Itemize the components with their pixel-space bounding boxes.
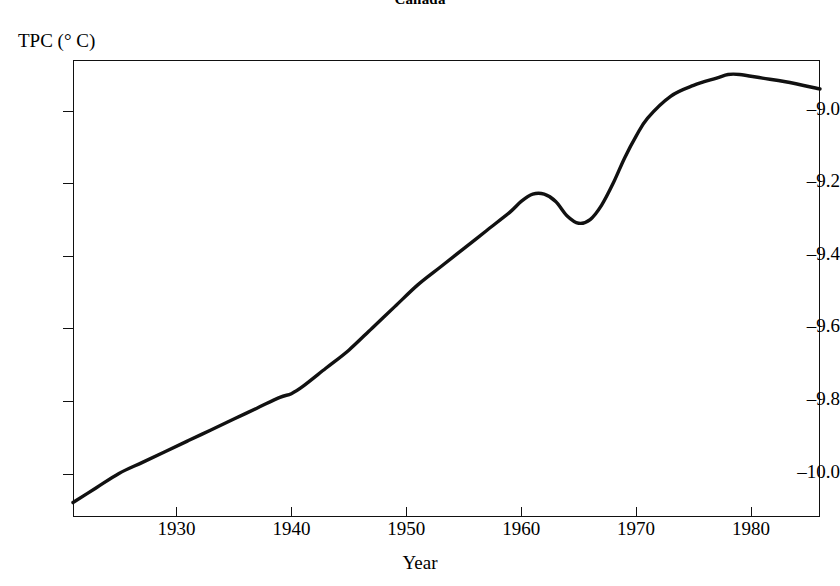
plot-area [73,60,820,517]
x-axis-tick [291,507,292,517]
y-axis-tick-label: –9.2 [778,170,840,192]
y-axis-tick [63,474,73,475]
y-axis-tick-label: –9.6 [778,315,840,337]
y-axis-label: TPC (° C) [18,30,95,52]
x-axis-tick [406,507,407,517]
x-axis-label: Year [0,552,840,574]
x-axis-tick-label: 1940 [251,518,331,540]
x-axis-tick [636,507,637,517]
data-line-series-tpc [73,74,820,502]
y-axis-tick [63,183,73,184]
chart-title: Canada [0,0,840,8]
y-axis-tick-label: –9.8 [778,388,840,410]
x-axis-tick-label: 1960 [481,518,561,540]
y-axis-tick-label: –9.4 [778,243,840,265]
x-axis-tick [521,507,522,517]
x-axis-tick-label: 1970 [596,518,676,540]
x-axis-tick-label: 1950 [366,518,446,540]
y-axis-tick [63,401,73,402]
x-axis-tick [751,507,752,517]
temperature-trend-chart: Canada TPC (° C) –9.0–9.2–9.4–9.6–9.8–10… [0,0,840,586]
y-axis-tick-label: –9.0 [778,98,840,120]
x-axis-tick [176,507,177,517]
y-axis-tick [63,328,73,329]
y-axis-tick [63,256,73,257]
y-axis-tick-label: –10.0 [778,461,840,483]
y-axis-tick [63,111,73,112]
x-axis-tick-label: 1930 [136,518,216,540]
x-axis-tick-label: 1980 [711,518,791,540]
